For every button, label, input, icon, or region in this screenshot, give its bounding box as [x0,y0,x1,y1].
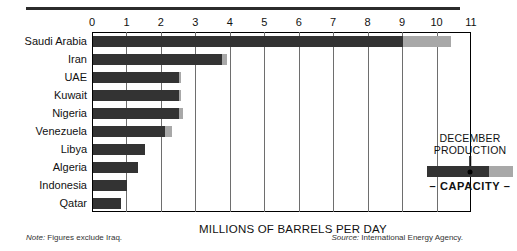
bar-capacity [179,108,182,119]
bar-row [93,108,472,119]
legend-pointer-line [469,156,471,166]
x-tick-label-9: 9 [390,16,414,29]
legend-pointer-dot [468,169,473,174]
x-tick-label-6: 6 [287,16,311,29]
bar-capacity [165,126,172,137]
bar-production [93,54,222,65]
bar-capacity [403,36,451,47]
x-tick-label-2: 2 [149,16,173,29]
x-tick-label-4: 4 [218,16,242,29]
y-axis-label-indonesia: Indonesia [39,179,87,192]
bar-production [93,162,138,173]
x-tick-label-7: 7 [321,16,345,29]
y-axis-label-qatar: Qatar [59,197,87,210]
footnote-source: Source: International Energy Agency. [332,233,464,243]
x-tick-label-10: 10 [425,16,449,29]
legend-production-swatch [427,166,489,177]
y-axis-label-kuwait: Kuwait [54,89,87,102]
legend-pointer [410,156,517,166]
bar-production [93,198,121,209]
legend-capacity-label: – CAPACITY – [410,180,517,192]
y-axis-label-libya: Libya [61,143,87,156]
x-axis-tick-labels: 01234567891011 [92,16,471,30]
footnote-note-text: Figures exclude Iraq. [45,233,122,242]
y-axis-label-uae: UAE [64,71,87,84]
bar-production [93,180,127,191]
y-axis-label-saudi-arabia: Saudi Arabia [25,35,87,48]
bar-row [93,54,472,65]
bar-row [93,36,472,47]
top-rule-divider [26,7,460,10]
bar-capacity [179,90,181,101]
bar-row [93,198,472,209]
x-tick-label-11: 11 [459,16,483,29]
footnote-note-prefix: Note: [26,233,45,242]
legend-title-line1: DECEMBER [410,132,517,144]
bar-capacity [179,72,181,83]
bar-row [93,72,472,83]
bar-production [93,72,179,83]
chart-legend: DECEMBER PRODUCTION – CAPACITY – [410,132,517,192]
x-tick-label-0: 0 [80,16,104,29]
footnote-source-text: International Energy Agency. [359,233,463,242]
x-tick-label-8: 8 [356,16,380,29]
footnote-source-prefix: Source: [332,233,360,242]
bar-production [93,90,179,101]
bar-production [93,126,165,137]
bar-row [93,90,472,101]
x-tick-label-5: 5 [252,16,276,29]
y-axis-label-venezuela: Venezuela [36,125,87,138]
bar-production [93,108,179,119]
legend-title-line2: PRODUCTION [410,144,517,156]
bar-production [93,36,403,47]
x-tick-label-1: 1 [114,16,138,29]
y-axis-category-labels: Saudi ArabiaIranUAEKuwaitNigeriaVenezuel… [0,32,87,212]
x-tick-label-3: 3 [183,16,207,29]
y-axis-label-algeria: Algeria [53,161,87,174]
y-axis-label-iran: Iran [68,53,87,66]
legend-capacity-swatch [427,166,513,177]
y-axis-label-nigeria: Nigeria [52,107,87,120]
bar-capacity [222,54,227,65]
plot-area: DECEMBER PRODUCTION – CAPACITY – MILLION… [92,32,471,212]
bar-production [93,144,145,155]
footnote-note: Note: Figures exclude Iraq. [26,233,122,243]
